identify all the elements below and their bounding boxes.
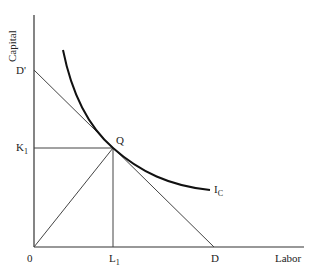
expansion-ray [34,148,113,247]
d-prime-label: D' [16,64,26,76]
y-axis-label: Capital [6,30,18,62]
k1-main: K [16,141,24,153]
isocost-line [34,70,214,247]
k1-label: K1 [16,141,28,153]
l1-label: L1 [109,252,120,264]
q-label: Q [116,134,124,146]
d-label: D [211,252,219,264]
k1-sub: 1 [24,147,28,156]
isoquant-label: IC [214,183,223,195]
isoquant-sub: C [218,189,223,198]
origin-label: 0 [27,252,33,264]
x-axis-label: Labor [275,252,301,264]
l1-main: L [109,252,116,264]
l1-sub: 1 [116,258,120,267]
diagram-canvas [0,0,317,271]
